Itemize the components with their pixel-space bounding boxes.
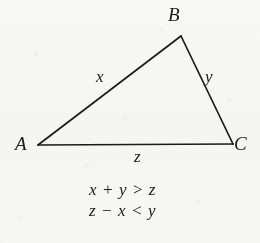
side-label-x: x bbox=[96, 68, 104, 85]
side-segment-x bbox=[38, 36, 181, 145]
vertex-label-b: B bbox=[168, 5, 180, 24]
inequality-line-1: x + y > z bbox=[89, 181, 156, 198]
side-segment-y bbox=[181, 36, 233, 144]
vertex-label-c: C bbox=[234, 134, 247, 153]
side-segment-z bbox=[38, 144, 233, 145]
vertex-label-a: A bbox=[15, 134, 27, 153]
geometry-figure: A B C x y z x + y > z z − x < y bbox=[0, 0, 260, 243]
inequality-line-2: z − x < y bbox=[89, 202, 156, 219]
side-label-y: y bbox=[205, 68, 213, 85]
side-label-z: z bbox=[134, 148, 141, 165]
